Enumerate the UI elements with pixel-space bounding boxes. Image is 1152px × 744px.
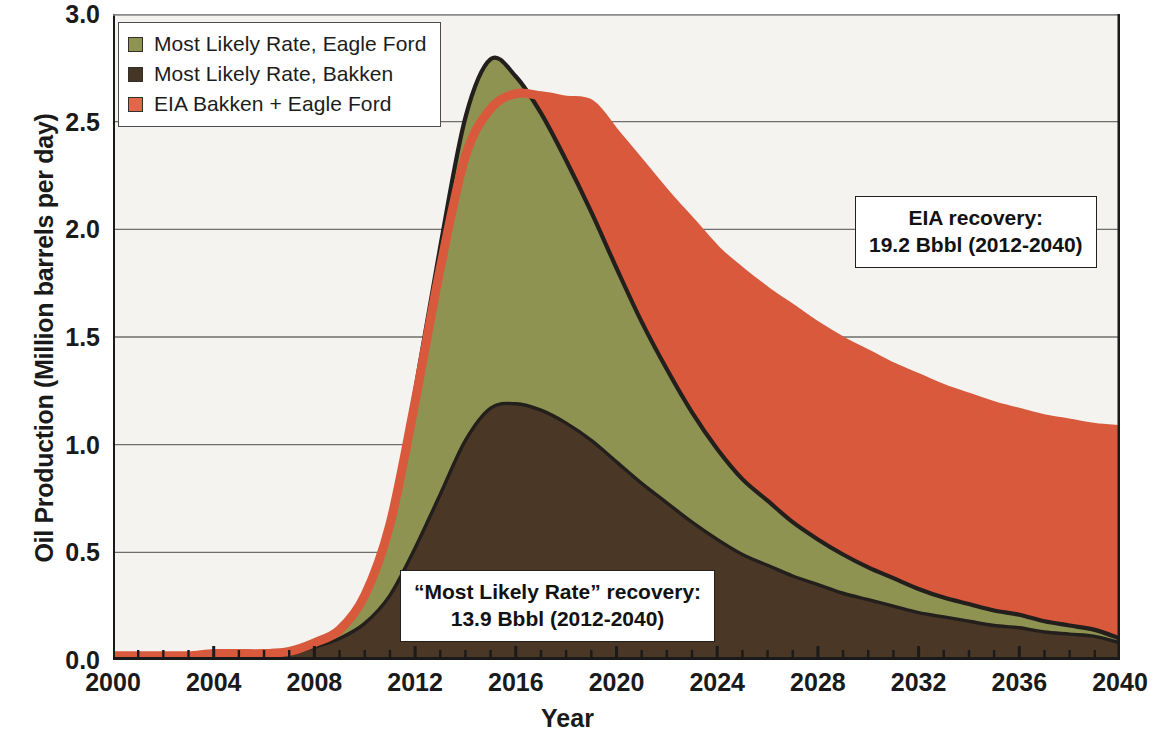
x-tick-label: 2004 [159,668,269,697]
x-tick-label: 2012 [360,668,470,697]
legend-label-eagle-ford: Most Likely Rate, Eagle Ford [154,32,426,56]
x-tick-label: 2036 [964,668,1074,697]
annotation-most-likely-recovery: “Most Likely Rate” recovery: 13.9 Bbbl (… [400,570,715,642]
annotation-eia-line1: EIA recovery: [869,204,1083,231]
legend-item-bakken: Most Likely Rate, Bakken [128,59,426,89]
legend-item-eia: EIA Bakken + Eagle Ford [128,89,426,119]
annotation-mlr-line2: 13.9 Bbbl (2012-2040) [414,605,701,632]
annotation-mlr-line1: “Most Likely Rate” recovery: [414,578,701,605]
y-tick-label: 3.0 [14,0,100,29]
legend-item-eagle-ford: Most Likely Rate, Eagle Ford [128,29,426,59]
x-tick-label: 2040 [1065,668,1152,697]
annotation-eia-line2: 19.2 Bbbl (2012-2040) [869,231,1083,258]
y-tick-label: 1.0 [14,430,100,459]
x-axis-title: Year [0,704,1135,733]
chart-legend: Most Likely Rate, Eagle Ford Most Likely… [118,22,441,127]
legend-swatch-eagle-ford [128,37,143,52]
annotation-eia-recovery: EIA recovery: 19.2 Bbbl (2012-2040) [855,196,1097,268]
x-tick-label: 2032 [864,668,974,697]
x-tick-label: 2000 [58,668,168,697]
x-tick-label: 2008 [259,668,369,697]
y-tick-label: 2.0 [14,215,100,244]
y-tick-label: 1.5 [14,323,100,352]
x-tick-label: 2024 [662,668,772,697]
legend-label-bakken: Most Likely Rate, Bakken [154,62,393,86]
legend-swatch-eia [128,97,143,112]
x-tick-label: 2020 [562,668,672,697]
legend-label-eia: EIA Bakken + Eagle Ford [154,92,392,116]
x-tick-label: 2016 [461,668,571,697]
legend-swatch-bakken [128,67,143,82]
x-tick-label: 2028 [763,668,873,697]
y-tick-label: 2.5 [14,107,100,136]
y-tick-label: 0.5 [14,538,100,567]
